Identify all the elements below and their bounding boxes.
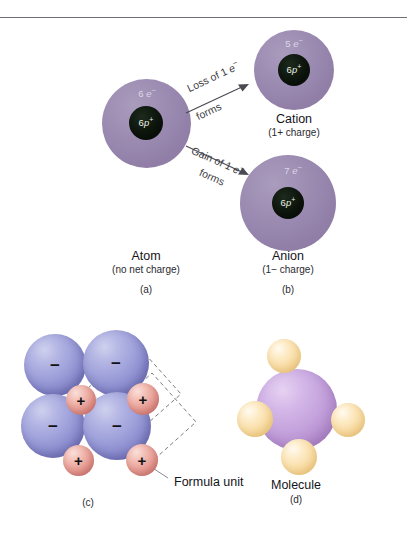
molecule-caption-block: Molecule (d) [271,478,321,506]
formula-unit-callout-label: Formula unit [174,475,243,489]
lattice-cation-sphere: + [66,385,96,415]
lattice-cation-sphere: + [63,445,94,476]
molecule-caption-letter: (d) [271,494,321,506]
cation-plus-sign: + [138,453,147,468]
cation-plus-sign: + [139,392,148,407]
anion-minus-sign: − [111,355,121,372]
figure-canvas: 6 e− 6p+ Atom (no net charge) (a) Loss o… [0,0,407,540]
lattice-cation-sphere: + [127,383,159,415]
lattice-caption-letter: (c) [82,497,94,509]
anion-minus-sign: − [48,418,58,435]
lattice-cation-sphere: + [126,444,158,476]
molecule-satellite-atom [237,401,273,437]
formula-unit-outline [0,0,407,540]
anion-minus-sign: − [112,418,122,435]
molecule-satellite-atom [267,339,301,373]
anion-minus-sign: − [50,357,60,374]
molecule-caption-title: Molecule [271,478,321,493]
molecule-satellite-atom [281,439,317,475]
cation-plus-sign: + [77,393,86,408]
cation-plus-sign: + [74,453,83,468]
molecule-satellite-atom [331,403,365,437]
